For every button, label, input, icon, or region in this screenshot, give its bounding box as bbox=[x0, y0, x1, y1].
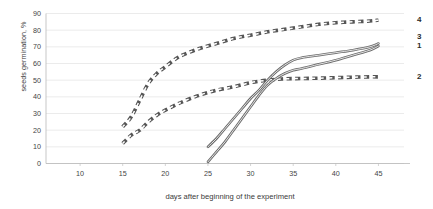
data-series-layer bbox=[123, 20, 379, 162]
series-line-inner bbox=[123, 77, 379, 144]
series-2 bbox=[123, 77, 379, 144]
plot-area bbox=[0, 0, 433, 209]
germination-line-chart: seeds germination, % days after beginnin… bbox=[0, 0, 433, 209]
series-4 bbox=[123, 20, 379, 127]
series-line-outer bbox=[123, 77, 379, 144]
series-line-outer bbox=[123, 20, 379, 127]
